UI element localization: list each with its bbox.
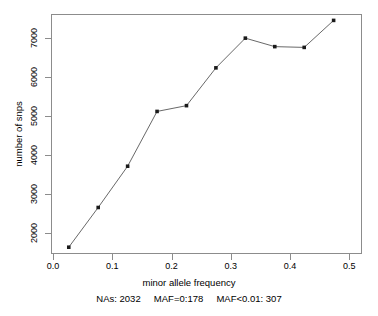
y-axis-tick [45,77,51,78]
x-axis-tick [172,254,173,260]
x-axis-tick [290,254,291,260]
x-axis-tick [53,254,54,260]
data-point-marker [214,66,218,70]
plot-area [51,14,362,254]
y-axis-tick [45,116,51,117]
y-axis-tick-label: 3000 [29,184,39,204]
data-point-marker [96,206,100,210]
x-axis-tick [231,254,232,260]
y-axis-tick [45,194,51,195]
y-axis-title: number of snps [13,101,24,166]
x-axis-tick-label: 0.5 [343,261,356,271]
y-axis-tick-label: 7000 [29,28,39,48]
data-point-marker [67,245,71,249]
chart-caption: NAs: 2032 MAF=0:178 MAF<0.01: 307 [0,293,378,304]
y-axis-tick-label: 6000 [29,67,39,87]
y-axis-tick-label: 4000 [29,145,39,165]
series-polyline [69,20,334,247]
x-axis-tick-label: 0.0 [47,261,60,271]
y-axis-tick-label: 5000 [29,106,39,126]
y-axis-tick [45,233,51,234]
x-axis-tick-label: 0.3 [225,261,238,271]
data-point-marker [126,164,130,168]
y-axis-tick [45,155,51,156]
chart-figure: number of snps minor allele frequency NA… [0,0,378,316]
x-axis-tick-label: 0.4 [284,261,297,271]
x-axis-tick-label: 0.2 [165,261,178,271]
x-axis-tick [112,254,113,260]
y-axis-tick [45,38,51,39]
data-point-marker [332,19,336,23]
data-point-marker [302,46,306,50]
data-point-marker [185,104,189,108]
data-point-marker [155,110,159,114]
x-axis-tick-label: 0.1 [106,261,119,271]
y-axis-tick-label: 2000 [29,223,39,243]
x-axis-tick [349,254,350,260]
x-axis-title: minor allele frequency [0,277,378,288]
data-point-marker [244,36,248,40]
data-point-marker [273,45,277,49]
series-line-chart [52,15,361,253]
